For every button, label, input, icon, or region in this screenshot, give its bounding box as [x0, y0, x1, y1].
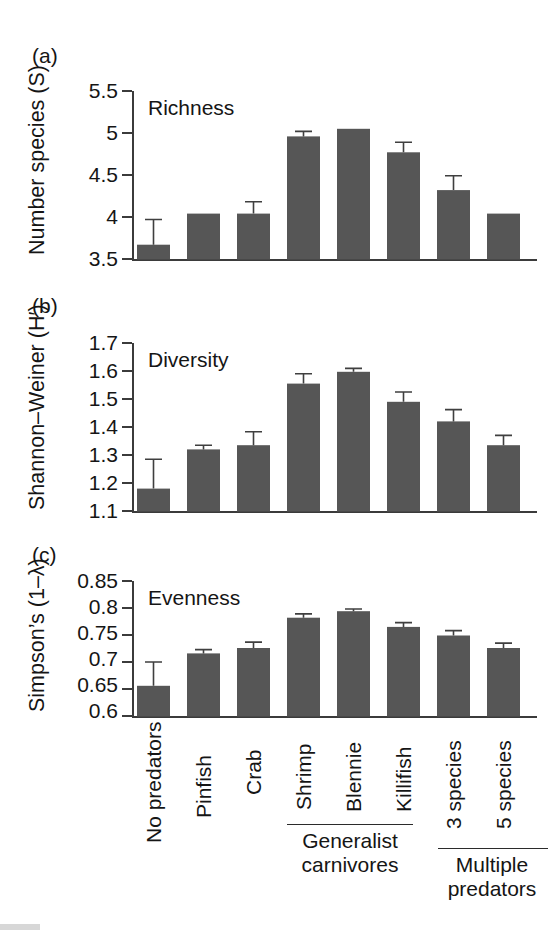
panel-b-bar-3-species [437, 421, 470, 511]
generalist-carnivores-label-line1: Generalist [302, 829, 398, 852]
figure-container: (a) Number species (S) Richness 5.5 5 4.… [0, 0, 557, 930]
panel-a-y-axis-title: Number species (S) [25, 65, 49, 255]
panel-c-bar-no-predators [137, 686, 170, 717]
group-bracket-generalist-carnivores: Generalist carnivores [287, 825, 413, 877]
x-label-no-predators: No predators [142, 722, 165, 843]
panel-c-ytick-0.65: 0.65 [77, 673, 118, 696]
panel-b-bar-pinfish [187, 449, 220, 511]
panel-c-ytick-0.7: 0.7 [89, 647, 118, 670]
panel-c-bar-blennie [337, 611, 370, 716]
x-label-crab: Crab [242, 749, 265, 795]
three-panel-bar-figure: (a) Number species (S) Richness 5.5 5 4.… [0, 0, 557, 930]
panel-b-bar-5-species [487, 445, 520, 511]
multiple-predators-label-line1: Multiple [456, 853, 528, 876]
x-label-killifish: Killifish [392, 747, 415, 812]
panel-a-bar-crab [237, 214, 270, 260]
panel-a-bar-blennie [337, 129, 370, 260]
panel-b-ytick-1.3: 1.3 [89, 443, 118, 466]
panel-a-ytick-4: 4 [106, 205, 118, 228]
panel-a-ytick-4.5: 4.5 [89, 163, 118, 186]
panel-c-bar-5-species [487, 648, 520, 717]
panel-c-bar-pinfish [187, 653, 220, 716]
x-label-blennie: Blennie [342, 742, 365, 812]
panel-b-title: Diversity [148, 348, 229, 371]
generalist-carnivores-label-line2: carnivores [302, 853, 399, 876]
panel-b-ytick-1.7: 1.7 [89, 331, 118, 354]
panel-a-bar-3-species [437, 190, 470, 259]
panel-b-bar-no-predators [137, 489, 170, 512]
panel-b-ytick-1.4: 1.4 [89, 415, 119, 438]
x-label-shrimp: Shrimp [292, 743, 315, 810]
panel-c-ytick-0.8: 0.8 [89, 595, 118, 618]
x-label-pinfish: Pinfish [192, 755, 215, 818]
x-label-3-species: 3 species [442, 740, 465, 829]
panel-c-bar-3-species [437, 636, 470, 717]
panel-a-ytick-3.5: 3.5 [89, 247, 118, 270]
panel-b-ytick-1.2: 1.2 [89, 471, 118, 494]
panel-c-bar-shrimp [287, 618, 320, 717]
page-edge-artifact [0, 924, 40, 930]
panel-b-bar-killifish [387, 402, 420, 512]
panel-c-title: Evenness [148, 586, 240, 609]
panel-a-bar-killifish [387, 152, 420, 259]
panel-b-bar-crab [237, 445, 270, 511]
panel-a-bar-no-predators [137, 245, 170, 260]
panel-c-bar-killifish [387, 627, 420, 717]
panel-c-ytick-0.75: 0.75 [77, 621, 118, 644]
panel-c-ytick-0.6: 0.6 [89, 699, 118, 722]
panel-a-bar-5-species [487, 214, 520, 260]
panel-a-ytick-5: 5 [106, 121, 118, 144]
panel-b-bar-blennie [337, 372, 370, 512]
panel-c-y-axis-title: Simpson’s (1–λ) [25, 558, 49, 712]
x-label-5-species: 5 species [492, 740, 515, 829]
panel-a-bar-pinfish [187, 214, 220, 260]
panel-a-bar-shrimp [287, 136, 320, 259]
panel-b-ytick-1.6: 1.6 [89, 359, 118, 382]
panel-a-ytick-5.5: 5.5 [89, 79, 118, 102]
panel-a-letter: (a) [32, 44, 58, 67]
figure-background [0, 0, 557, 930]
panel-b-y-ticks: 1.7 1.6 1.5 1.4 1.3 1.2 1.1 [89, 331, 119, 522]
panel-b-y-axis-title: Shannon–Weiner (H′) [25, 304, 49, 510]
panel-b-bar-shrimp [287, 384, 320, 512]
panel-b-ytick-1.1: 1.1 [89, 499, 118, 522]
panel-b-ytick-1.5: 1.5 [89, 387, 118, 410]
panel-a-title: Richness [148, 96, 234, 119]
panel-c-ytick-0.85: 0.85 [77, 569, 118, 592]
multiple-predators-label-line2: predators [448, 877, 537, 900]
panel-c-bar-crab [237, 648, 270, 717]
